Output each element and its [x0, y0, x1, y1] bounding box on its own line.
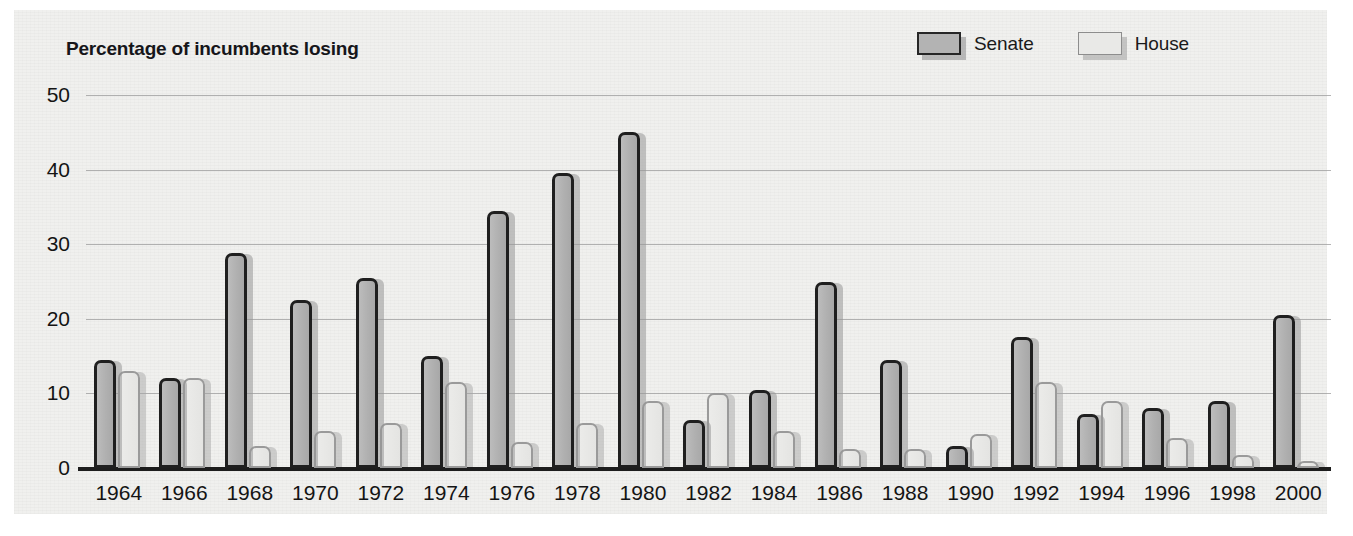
- x-axis-tick-label: 2000: [1275, 481, 1322, 505]
- bar-group-1990: 1990: [938, 95, 1004, 468]
- x-axis-tick-label: 1982: [685, 481, 732, 505]
- legend-label: Senate: [974, 33, 1034, 55]
- x-axis-tick-label: 1976: [489, 481, 536, 505]
- bar-senate-1996[interactable]: [1142, 408, 1164, 468]
- bar-house-1964[interactable]: [118, 371, 140, 468]
- bar-senate-1992[interactable]: [1011, 337, 1033, 468]
- bar-group-1966: 1966: [152, 95, 218, 468]
- legend-label: House: [1135, 33, 1189, 55]
- legend-swatch-senate: [917, 32, 961, 55]
- bar-group-1986: 1986: [807, 95, 873, 468]
- x-axis-tick-label: 1974: [423, 481, 470, 505]
- bar-senate-1974[interactable]: [421, 356, 443, 468]
- bar-group-1998: 1998: [1200, 95, 1266, 468]
- bar-house-1988[interactable]: [904, 449, 926, 468]
- bar-house-2000[interactable]: [1297, 461, 1319, 468]
- x-axis-tick-label: 1968: [226, 481, 273, 505]
- bar-senate-1982[interactable]: [683, 420, 705, 468]
- bar-house-1984[interactable]: [773, 431, 795, 468]
- bar-group-1976: 1976: [479, 95, 545, 468]
- bar-senate-1990[interactable]: [946, 446, 968, 468]
- bar-house-1974[interactable]: [445, 382, 467, 468]
- bar-house-1978[interactable]: [576, 423, 598, 468]
- bar-group-1970: 1970: [283, 95, 349, 468]
- page-title: Percentage of incumbents losing: [66, 38, 359, 60]
- bar-group-1978: 1978: [545, 95, 611, 468]
- bar-group-1994: 1994: [1069, 95, 1135, 468]
- bar-house-1994[interactable]: [1101, 401, 1123, 468]
- bar-senate-1966[interactable]: [159, 378, 181, 468]
- y-axis-tick-label: 10: [47, 381, 70, 405]
- x-axis-tick-label: 1986: [816, 481, 863, 505]
- figure: Percentage of incumbents losing SenateHo…: [0, 0, 1353, 536]
- bar-house-1990[interactable]: [970, 434, 992, 468]
- bar-senate-1988[interactable]: [880, 360, 902, 468]
- bar-group-2000: 2000: [1265, 95, 1331, 468]
- bar-group-1972: 1972: [348, 95, 414, 468]
- chart-panel: Percentage of incumbents losing SenateHo…: [14, 10, 1327, 514]
- bar-house-1996[interactable]: [1166, 438, 1188, 468]
- bar-group-1968: 1968: [217, 95, 283, 468]
- bar-group-1964: 1964: [86, 95, 152, 468]
- bar-senate-1964[interactable]: [94, 360, 116, 468]
- bar-group-1980: 1980: [610, 95, 676, 468]
- x-axis-tick-label: 1964: [95, 481, 142, 505]
- x-axis-tick-label: 1990: [947, 481, 994, 505]
- bar-senate-1976[interactable]: [487, 211, 509, 468]
- bar-senate-1984[interactable]: [749, 390, 771, 468]
- bar-senate-1978[interactable]: [552, 173, 574, 468]
- x-axis-tick-label: 1992: [1013, 481, 1060, 505]
- x-axis-tick-label: 1984: [751, 481, 798, 505]
- x-axis-tick-label: 1998: [1209, 481, 1256, 505]
- bar-group-1984: 1984: [741, 95, 807, 468]
- y-axis-tick-label: 50: [47, 83, 70, 107]
- bar-senate-2000[interactable]: [1273, 315, 1295, 468]
- bar-senate-1980[interactable]: [618, 132, 640, 468]
- x-axis-tick-label: 1972: [357, 481, 404, 505]
- bar-group-1974: 1974: [414, 95, 480, 468]
- bar-senate-1994[interactable]: [1077, 414, 1099, 468]
- bar-house-1976[interactable]: [511, 442, 533, 468]
- legend-item-house[interactable]: House: [1078, 32, 1189, 55]
- plot-area: 0102030405019641966196819701972197419761…: [86, 95, 1331, 468]
- bar-senate-1970[interactable]: [290, 300, 312, 468]
- x-axis-tick-label: 1980: [620, 481, 667, 505]
- bar-house-1972[interactable]: [380, 423, 402, 468]
- bar-group-1992: 1992: [1003, 95, 1069, 468]
- bar-house-1998[interactable]: [1232, 455, 1254, 468]
- x-axis-tick-label: 1978: [554, 481, 601, 505]
- bar-house-1986[interactable]: [839, 449, 861, 468]
- bar-group-1982: 1982: [676, 95, 742, 468]
- y-axis-tick-label: 40: [47, 158, 70, 182]
- bar-senate-1972[interactable]: [356, 278, 378, 468]
- bar-house-1968[interactable]: [249, 446, 271, 468]
- bar-house-1970[interactable]: [314, 431, 336, 468]
- bar-senate-1998[interactable]: [1208, 401, 1230, 468]
- y-axis-tick-label: 20: [47, 307, 70, 331]
- bar-house-1966[interactable]: [183, 378, 205, 468]
- bar-senate-1968[interactable]: [225, 253, 247, 468]
- x-axis-tick-label: 1996: [1144, 481, 1191, 505]
- x-axis-tick-label: 1966: [161, 481, 208, 505]
- legend-item-senate[interactable]: Senate: [917, 32, 1034, 55]
- x-axis-tick-label: 1988: [882, 481, 929, 505]
- bar-house-1980[interactable]: [642, 401, 664, 468]
- bar-group-1988: 1988: [872, 95, 938, 468]
- x-axis-tick-label: 1970: [292, 481, 339, 505]
- bar-senate-1986[interactable]: [815, 282, 837, 469]
- y-axis-tick-label: 30: [47, 232, 70, 256]
- x-axis-tick-label: 1994: [1078, 481, 1125, 505]
- chart-legend: SenateHouse: [917, 32, 1189, 55]
- bar-house-1982[interactable]: [707, 393, 729, 468]
- bar-group-1996: 1996: [1134, 95, 1200, 468]
- y-axis-tick-label: 0: [58, 456, 70, 480]
- bar-house-1992[interactable]: [1035, 382, 1057, 468]
- legend-swatch-house: [1078, 32, 1122, 55]
